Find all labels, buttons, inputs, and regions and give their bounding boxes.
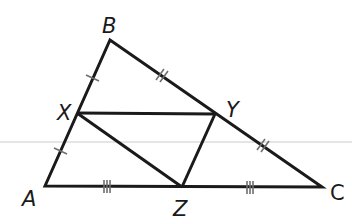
- label-c: C: [330, 181, 345, 205]
- segment-yz: [182, 114, 215, 187]
- tick-marks: [54, 69, 269, 194]
- label-z: Z: [172, 197, 188, 221]
- triangle-diagram: B X A Y Z C: [0, 0, 352, 224]
- segment-xy: [77, 113, 215, 114]
- label-x: X: [56, 101, 72, 125]
- label-a: A: [20, 187, 36, 211]
- label-b: B: [102, 14, 116, 38]
- midsegment-triangle: [77, 113, 215, 187]
- label-y: Y: [226, 98, 241, 122]
- segment-zx: [77, 113, 182, 187]
